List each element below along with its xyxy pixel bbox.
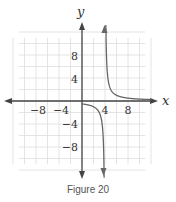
y-tick-label: −8 bbox=[62, 141, 78, 154]
x-axis: x bbox=[4, 93, 170, 108]
y-tick-label: 8 bbox=[71, 50, 78, 63]
y-axis-label: y bbox=[76, 4, 85, 19]
x-axis-left-arrow-icon bbox=[4, 98, 12, 104]
y-axis-up-arrow-icon bbox=[79, 22, 85, 30]
graph: x y −8 −4 4 8 8 4 −4 −8 bbox=[0, 0, 176, 182]
y-tick-labels: 8 4 −4 −8 bbox=[62, 50, 78, 154]
y-axis-down-arrow-icon bbox=[79, 171, 85, 179]
curve-down-arrow-icon bbox=[101, 168, 107, 176]
x-tick-label: 4 bbox=[102, 104, 109, 117]
x-tick-label: 8 bbox=[125, 104, 132, 117]
curve-up-arrow-icon bbox=[102, 25, 108, 33]
y-tick-label: 4 bbox=[71, 73, 78, 86]
x-axis-label: x bbox=[162, 93, 170, 108]
y-tick-label: −4 bbox=[62, 118, 78, 131]
x-tick-label: −4 bbox=[53, 104, 69, 117]
figure-caption: Figure 20 bbox=[0, 184, 176, 195]
x-axis-right-arrow-icon bbox=[150, 98, 158, 104]
x-tick-label: −8 bbox=[30, 104, 46, 117]
